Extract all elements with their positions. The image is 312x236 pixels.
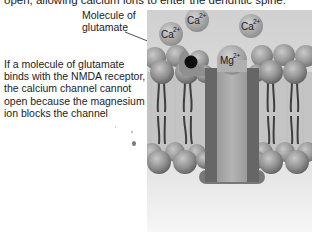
magnesium-ion: Mg 2+ (217, 45, 247, 75)
calcium-ion-3: Ca 2+ (239, 14, 263, 38)
glutamate-molecule (185, 56, 198, 69)
scan-speck (131, 131, 133, 133)
scan-speck (115, 126, 116, 128)
nmda-receptor-diagram: Ca 2+ Ca 2+ Ca 2+ Mg 2+ (147, 10, 312, 232)
svg-text:2+: 2+ (199, 12, 207, 19)
svg-text:2+: 2+ (233, 52, 241, 59)
nmda-channel (199, 68, 265, 184)
calcium-ion-1: Ca 2+ (159, 22, 183, 46)
scan-speck (132, 141, 136, 146)
svg-text:2+: 2+ (253, 18, 261, 25)
glutamate-label: Molecule of glutamate (82, 9, 152, 33)
side-caption: If a molecule of glutamate binds with th… (4, 58, 150, 119)
top-caption: open, allowing calcium ions to enter the… (4, 0, 312, 7)
svg-text:2+: 2+ (173, 26, 181, 33)
svg-text:Mg: Mg (220, 55, 234, 66)
